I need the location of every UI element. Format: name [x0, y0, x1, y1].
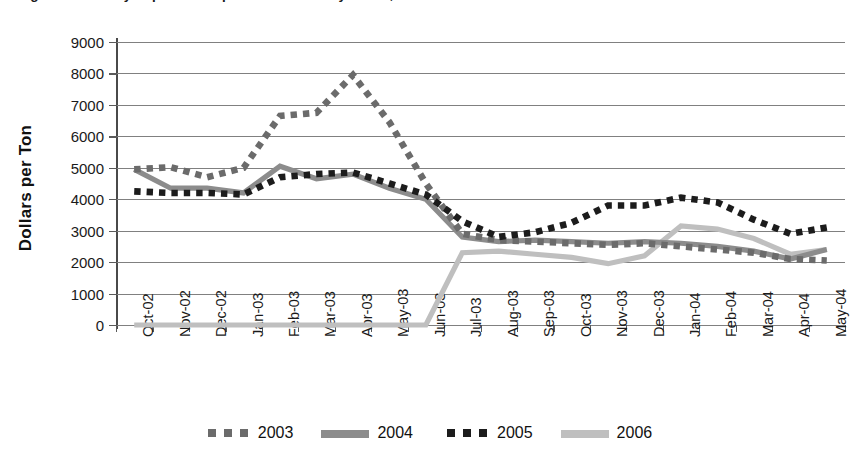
legend-dot [224, 429, 232, 437]
legend-label-2003: 2003 [258, 424, 294, 442]
y-axis-tick-label: 0 [42, 317, 104, 334]
legend-label-2004: 2004 [377, 424, 413, 442]
gridline [116, 168, 845, 169]
x-axis-tick-label: Sep-03 [541, 290, 557, 337]
y-axis-tick-label: 4000 [42, 191, 104, 208]
legend-item-2005[interactable]: 2005 [441, 424, 533, 442]
chart-legend: 2003200420052006 [0, 424, 854, 442]
legend-swatch-2003 [202, 429, 250, 437]
legend-item-2004[interactable]: 2004 [321, 424, 413, 442]
legend-dot [447, 429, 455, 437]
y-axis-tick-label: 8000 [42, 65, 104, 82]
legend-dot [240, 429, 248, 437]
y-axis-tick-mark [109, 262, 117, 263]
gridline [116, 262, 845, 263]
x-axis-tick-label: Mar-03 [322, 291, 338, 337]
y-axis-tick-label: 1000 [42, 285, 104, 302]
x-axis-tick-label: Jan-04 [687, 293, 703, 337]
x-axis-tick-mark [116, 325, 117, 332]
x-axis-tick-label: Feb-04 [723, 291, 739, 337]
legend-item-2003[interactable]: 2003 [202, 424, 294, 442]
x-axis-tick-label: Aug-03 [505, 290, 521, 337]
gridline [116, 231, 845, 232]
y-axis-tick-mark [109, 42, 117, 43]
x-axis-tick-label: Jul-03 [468, 298, 484, 338]
y-axis-tick-label: 5000 [42, 159, 104, 176]
x-axis-tick-label: Mar-04 [760, 291, 776, 337]
x-axis-tick-label: Oct-03 [578, 293, 594, 337]
y-axis-tick-mark [109, 136, 117, 137]
y-axis-tick-mark [109, 231, 117, 232]
plot-area [116, 42, 845, 325]
y-axis-tick-label: 3000 [42, 222, 104, 239]
gridline [116, 136, 845, 137]
legend-label-2006: 2006 [617, 424, 653, 442]
legend-swatch-2004 [321, 430, 369, 438]
legend-label-2005: 2005 [497, 424, 533, 442]
x-axis-tick-label: Apr-03 [359, 293, 375, 337]
gridline [116, 105, 845, 106]
x-axis-tick-label: Dec-02 [213, 290, 229, 337]
gridline [116, 199, 845, 200]
legend-item-2006[interactable]: 2006 [561, 424, 653, 442]
legend-swatch-2005 [441, 429, 489, 437]
legend-swatch-2006 [561, 430, 609, 438]
y-axis-tick-mark [109, 105, 117, 106]
y-axis-tick-label: 6000 [42, 128, 104, 145]
chart-container: Figure 4. Monthly Paper and Paperboard P… [0, 0, 854, 453]
x-axis-tick-label: Dec-03 [651, 290, 667, 337]
y-axis-tick-mark [109, 199, 117, 200]
x-axis-tick-label: Feb-03 [286, 291, 302, 337]
x-axis-tick-label: May-04 [833, 289, 849, 337]
legend-dot [208, 429, 216, 437]
y-axis-tick-label: 9000 [42, 34, 104, 51]
chart-title: Figure 4. Monthly Paper and Paperboard P… [18, 0, 578, 3]
legend-dot [463, 429, 471, 437]
gridline [116, 42, 845, 43]
y-axis-title: Dollars per Ton [16, 78, 36, 298]
x-axis-tick-label: Jan-03 [250, 293, 266, 337]
y-axis-tick-label: 2000 [42, 254, 104, 271]
x-axis-tick-label: Nov-03 [614, 290, 630, 337]
y-axis-tick-mark [109, 294, 117, 295]
y-axis-tick-label: 7000 [42, 96, 104, 113]
x-axis-tick-label: Oct-02 [140, 293, 156, 337]
x-axis-tick-label: Apr-04 [796, 293, 812, 337]
x-axis-tick-label: Nov-02 [177, 290, 193, 337]
y-axis-tick-mark [109, 168, 117, 169]
x-axis-tick-label: Jun-03 [432, 293, 448, 337]
y-axis-tick-mark [109, 73, 117, 74]
x-axis-tick-label: May-03 [395, 289, 411, 337]
legend-dot [479, 429, 487, 437]
gridline [116, 73, 845, 74]
